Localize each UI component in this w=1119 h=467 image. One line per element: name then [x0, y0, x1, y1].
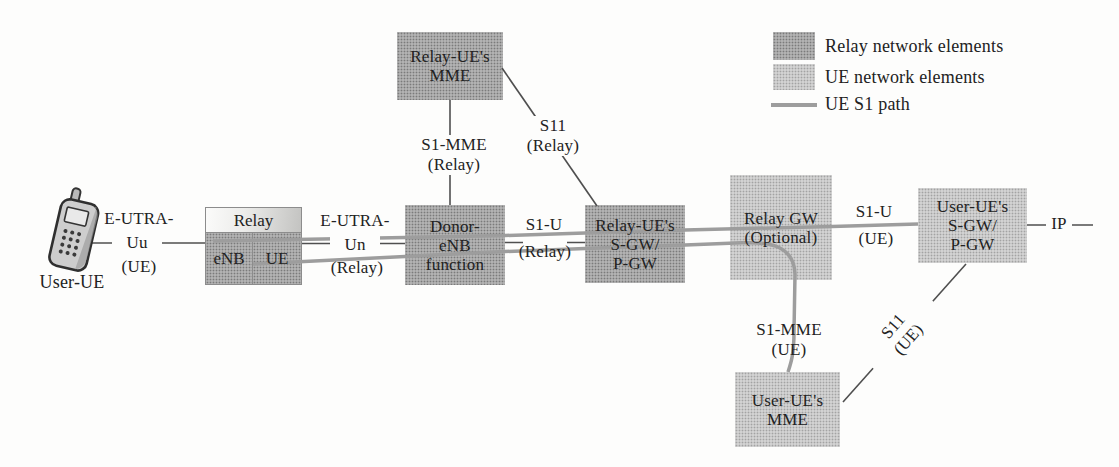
- legend-ue-swatch-icon: [773, 64, 815, 90]
- legend-item-relay-elements: Relay network elements: [773, 32, 1003, 60]
- node-label: Donor-: [430, 217, 480, 236]
- node-label: Relay-UE's: [410, 47, 490, 66]
- edge-label-s1u-ue-1: S1-U: [846, 202, 902, 222]
- edge-label-s1mme-relay: S1-MME (Relay): [406, 135, 502, 175]
- edge-label-s1u-relay-2: (Relay): [507, 242, 583, 262]
- legend-item-ue-elements: UE network elements: [773, 64, 985, 90]
- legend-s1path-line-icon: [771, 103, 817, 107]
- node-label: Relay-UE's: [595, 216, 675, 235]
- node-label: User-UE's: [937, 197, 1009, 216]
- edge-label-s1u-ue-2: (UE): [848, 229, 904, 249]
- node-label: UE: [266, 249, 289, 268]
- node-label: (Optional): [745, 228, 818, 247]
- node-label: User-UE's: [752, 391, 824, 410]
- node-label: Relay GW: [744, 209, 818, 228]
- legend-label: UE network elements: [825, 67, 985, 88]
- node-label: eNB: [213, 249, 244, 268]
- edge-label-s11-relay: S11 (Relay): [512, 116, 594, 156]
- legend-item-ue-s1-path: UE S1 path: [771, 94, 910, 115]
- legend-label: Relay network elements: [825, 36, 1003, 57]
- node-donor-enb-function: Donor- eNB function: [405, 205, 505, 285]
- edge-label-line: S1-MME: [409, 135, 499, 155]
- node-relay-ue-mme: Relay-UE's MME: [397, 32, 503, 100]
- node-user-ue-sgw-pgw: User-UE's S-GW/ P-GW: [918, 188, 1027, 263]
- node-label: P-GW: [950, 235, 994, 254]
- edge-label-line: (UE): [742, 340, 836, 360]
- user-ue-caption: User-UE: [26, 272, 118, 292]
- relay-cell-enb: eNB: [206, 233, 252, 284]
- mobile-phone-icon: [36, 186, 112, 282]
- node-relay-gw: Relay GW (Optional): [730, 175, 832, 280]
- edge-label-line: S1-MME: [742, 320, 836, 340]
- relay-title-strip: Relay: [205, 207, 302, 233]
- node-label: eNB: [439, 236, 471, 255]
- edge-label-e-utra-un-1: E-UTRA-: [307, 211, 403, 231]
- edge-label-ip: IP: [1046, 214, 1072, 234]
- node-label: S-GW/: [948, 216, 997, 235]
- edge-label-s11-ue: S11 (UE): [856, 286, 945, 380]
- node-label: S-GW/: [610, 235, 659, 254]
- edge-label-line: (Relay): [409, 155, 499, 175]
- relay-cell-ue: UE: [252, 233, 301, 284]
- relay-cells: eNB UE: [205, 233, 302, 285]
- node-label: MME: [429, 66, 470, 85]
- legend-label: UE S1 path: [825, 94, 910, 115]
- edge-label-s1mme-ue: S1-MME (UE): [742, 320, 836, 360]
- edge-label-e-utra-un-2: Un: [330, 235, 380, 255]
- legend-relay-swatch-icon: [773, 32, 815, 60]
- node-user-ue-mme: User-UE's MME: [735, 372, 840, 447]
- node-label: Relay: [234, 211, 274, 230]
- edge-label-e-utra-uu-2: Uu: [112, 233, 162, 253]
- edge-label-line: S11: [515, 116, 591, 136]
- node-relay-ue-sgw-pgw: Relay-UE's S-GW/ P-GW: [585, 205, 685, 283]
- edge-label-s1u-relay-1: S1-U: [517, 215, 571, 235]
- edge-label-e-utra-uu-1: E-UTRA-: [92, 209, 186, 229]
- node-label: P-GW: [613, 254, 657, 273]
- edge-label-e-utra-un-3: (Relay): [317, 258, 397, 278]
- diagram-canvas: Relay-UE's MME Donor- eNB function Relay…: [0, 0, 1119, 467]
- node-relay: Relay eNB UE: [205, 207, 302, 285]
- node-label: function: [426, 255, 484, 274]
- edge-label-line: (Relay): [515, 136, 591, 156]
- node-label: MME: [767, 410, 808, 429]
